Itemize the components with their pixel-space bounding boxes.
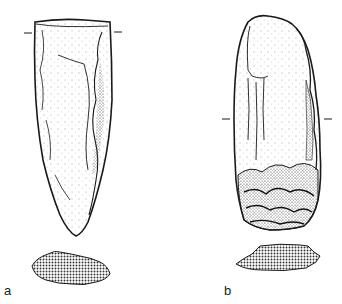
figure-label-a: a [4,284,11,297]
artifact-plate [0,0,342,304]
figure-label-b: b [224,284,231,297]
artifact-b [222,16,332,230]
artifact-a [24,19,122,236]
artifact-b-worked-base [238,163,318,230]
cross-section-a [32,251,110,284]
cross-section-b [236,244,320,270]
